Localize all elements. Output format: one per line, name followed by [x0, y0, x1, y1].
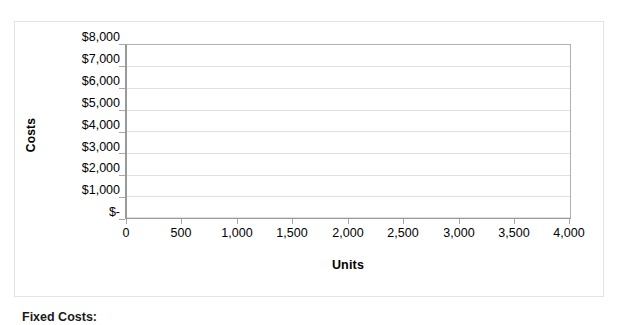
x-tick-mark	[459, 219, 460, 224]
gridline	[127, 66, 570, 67]
plot-area[interactable]	[125, 44, 571, 219]
y-axis-tick-labels: $8,000 $7,000 $6,000 $5,000 $4,000 $3,00…	[45, 37, 120, 212]
x-tick-label: 2,000	[332, 227, 363, 240]
gridline	[127, 131, 570, 132]
x-tick-mark	[569, 219, 570, 224]
x-tick-label: 3,500	[498, 227, 529, 240]
gridline	[127, 88, 570, 89]
y-tick-label: $4,000	[45, 119, 120, 132]
x-tick-mark	[237, 219, 238, 224]
x-tick-mark	[181, 219, 182, 224]
gridline	[127, 153, 570, 154]
gridline	[127, 196, 570, 197]
y-tick-label: $7,000	[45, 53, 120, 66]
x-tick-label: 4,000	[553, 227, 584, 240]
gridline	[127, 175, 570, 176]
gridline	[127, 217, 570, 218]
y-tick-label: $2,000	[45, 162, 120, 175]
x-tick-label: 2,500	[387, 227, 418, 240]
x-tick-mark	[292, 219, 293, 224]
y-axis-title: Costs	[24, 105, 38, 165]
y-tick-label: $3,000	[45, 141, 120, 154]
y-tick-label: $6,000	[45, 75, 120, 88]
x-tick-label: 500	[171, 227, 192, 240]
chart-container[interactable]: Costs $8,000 $7,000 $6,000 $5,000 $4,000…	[14, 21, 604, 297]
gridline	[127, 110, 570, 111]
x-tick-label: 3,000	[443, 227, 474, 240]
x-tick-mark	[403, 219, 404, 224]
y-tick-mark	[119, 219, 125, 220]
y-tick-label: $8,000	[45, 31, 120, 44]
x-tick-label: 1,500	[276, 227, 307, 240]
x-tick-label: 1,000	[221, 227, 252, 240]
y-tick-label: $5,000	[45, 97, 120, 110]
x-tick-mark	[514, 219, 515, 224]
fixed-costs-label: Fixed Costs:	[22, 310, 97, 324]
x-axis-title: Units	[125, 258, 571, 272]
x-tick-mark	[348, 219, 349, 224]
y-tick-label: $-	[45, 206, 120, 219]
x-tick-label: 0	[123, 227, 130, 240]
x-tick-mark	[126, 219, 127, 224]
y-tick-label: $1,000	[45, 184, 120, 197]
